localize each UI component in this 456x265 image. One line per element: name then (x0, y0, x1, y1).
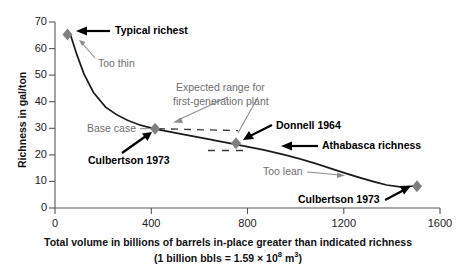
y-tick-label-20: 20 (29, 149, 47, 160)
annotation-arrows-bold (76, 27, 411, 201)
x-tick-label-0: 0 (45, 218, 65, 229)
annotation-expected-range-line2: first-generation plant (173, 96, 269, 107)
expected-range-dashed-line (158, 129, 238, 131)
x-note-suffix: ) (298, 252, 302, 264)
annotation-typical-richest: Typical richest (115, 25, 188, 36)
y-tick-label-0: 0 (29, 202, 47, 213)
x-note-mid: 10 (263, 252, 278, 264)
annotation-too-thin: Too thin (98, 58, 135, 69)
y-axis-title: Richness in gal/ton (16, 72, 28, 168)
annotation-culbertson-1973-right: Culbertson 1973 (298, 194, 380, 205)
y-tick-label-10: 10 (29, 175, 47, 186)
annotation-athabasca-richness: Athabasca richness (322, 140, 421, 151)
y-tick-label-40: 40 (29, 96, 47, 107)
arrow-donnell (243, 125, 272, 140)
arrow-athabasca (281, 142, 318, 151)
x-note-prefix: (1 billion bbls = 1.59 (154, 252, 257, 264)
y-tick-label-50: 50 (29, 69, 47, 80)
y-tick-label-70: 70 (29, 16, 47, 27)
annotation-culbertson-1973-left: Culbertson 1973 (88, 155, 170, 166)
x-tick-label-1600: 1600 (424, 218, 456, 229)
x-tick-label-400: 400 (136, 218, 166, 229)
annotation-donnell-1964: Donnell 1964 (276, 120, 341, 131)
x-tick-label-800: 800 (233, 218, 263, 229)
annotation-base-case: Base case (87, 123, 136, 134)
chart-plot-area (0, 0, 456, 265)
x-note-unit-m: m (282, 252, 294, 264)
y-tick-label-60: 60 (29, 43, 47, 54)
annotation-too-lean: Too lean (263, 166, 303, 177)
x-axis-title-note: (1 billion bbls = 1.59 × 108 m3) (0, 250, 456, 264)
arrow-culbertson-right (385, 186, 411, 200)
chart-figure: 70 60 50 40 30 20 10 0 0 400 800 1200 16… (0, 0, 456, 265)
y-tick-label-30: 30 (29, 122, 47, 133)
data-point-markers (63, 29, 423, 193)
y-axis-ticks (49, 22, 55, 208)
marker-culbertson-right (412, 180, 422, 192)
x-axis-ticks (55, 208, 440, 214)
marker-donnell (231, 137, 241, 149)
arrow-typical-richest (76, 27, 110, 36)
x-tick-label-1200: 1200 (328, 218, 360, 229)
arrow-culbertson-left (122, 132, 152, 153)
annotation-expected-range-line1: Expected range for (176, 82, 265, 93)
x-axis-title: Total volume in billions of barrels in-p… (0, 236, 456, 248)
